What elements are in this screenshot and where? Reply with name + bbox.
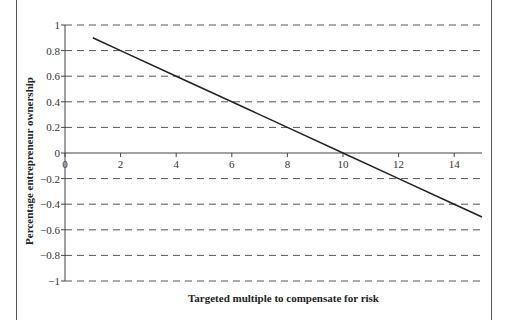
- x-axis-ticks: 02468101214: [62, 153, 460, 170]
- y-tick-label: 0: [55, 147, 61, 159]
- y-axis-ticks: 10.80.60.40.20−0.2−0.4−0.6−0.8−1: [40, 19, 65, 287]
- y-axis-title: Percentage entrepreneur ownership: [23, 77, 35, 245]
- y-tick-label: −0.8: [40, 249, 60, 261]
- y-tick-label: 0.4: [46, 96, 60, 108]
- y-tick-label: −0.6: [40, 224, 60, 236]
- x-tick-label: 6: [229, 158, 235, 170]
- x-tick-label: 14: [449, 158, 461, 170]
- axes: [65, 25, 482, 281]
- y-tick-label: −0.4: [40, 198, 60, 210]
- y-tick-label: −1: [48, 275, 60, 287]
- x-tick-label: 2: [118, 158, 124, 170]
- y-tick-label: 1: [55, 19, 61, 31]
- y-tick-label: 0.2: [46, 121, 60, 133]
- y-tick-label: 0.8: [46, 45, 60, 57]
- y-tick-label: 0.6: [46, 70, 60, 82]
- y-tick-label: −0.2: [40, 173, 60, 185]
- x-tick-label: 8: [285, 158, 291, 170]
- x-tick-label: 4: [173, 158, 179, 170]
- x-tick-label: 12: [393, 158, 404, 170]
- x-axis-title: Targeted multiple to compensate for risk: [188, 292, 380, 304]
- x-tick-label: 0: [62, 158, 68, 170]
- x-tick-label: 10: [338, 158, 350, 170]
